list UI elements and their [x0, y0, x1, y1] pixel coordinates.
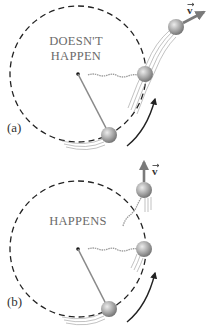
- string-taut: [78, 74, 106, 128]
- circular-motion-diagram: v DOESN'T HAPPEN (a): [0, 0, 215, 333]
- ball-right: [137, 66, 153, 82]
- caption-line-2: HAPPEN: [51, 49, 101, 63]
- caption-line-1: HAPPENS: [49, 214, 107, 228]
- ball-flying-off: [168, 19, 184, 35]
- ball-bottom: [101, 301, 117, 317]
- panel-b: v HAPPENS (b): [7, 162, 159, 325]
- motion-streaks-bottom: [62, 139, 105, 150]
- motion-streaks-right: [131, 254, 143, 272]
- ball-flying-off: [136, 182, 152, 198]
- caption-line-1: DOESN'T: [49, 34, 103, 48]
- rotation-direction-arrow-icon: [127, 99, 155, 146]
- motion-streaks-vertical: [145, 197, 151, 212]
- panel-label-b: (b): [7, 294, 22, 309]
- rotation-direction-arrow-icon: [127, 273, 155, 322]
- string-loose: [123, 198, 141, 226]
- panel-a: v DOESN'T HAPPEN (a): [7, 3, 204, 150]
- string-slack: [88, 248, 138, 251]
- ball-right: [136, 241, 152, 257]
- ball-bottom: [101, 127, 117, 143]
- motion-streaks-bottom: [62, 313, 105, 325]
- string-slack: [88, 74, 138, 77]
- panel-label-a: (a): [7, 120, 21, 135]
- string-taut: [78, 249, 106, 304]
